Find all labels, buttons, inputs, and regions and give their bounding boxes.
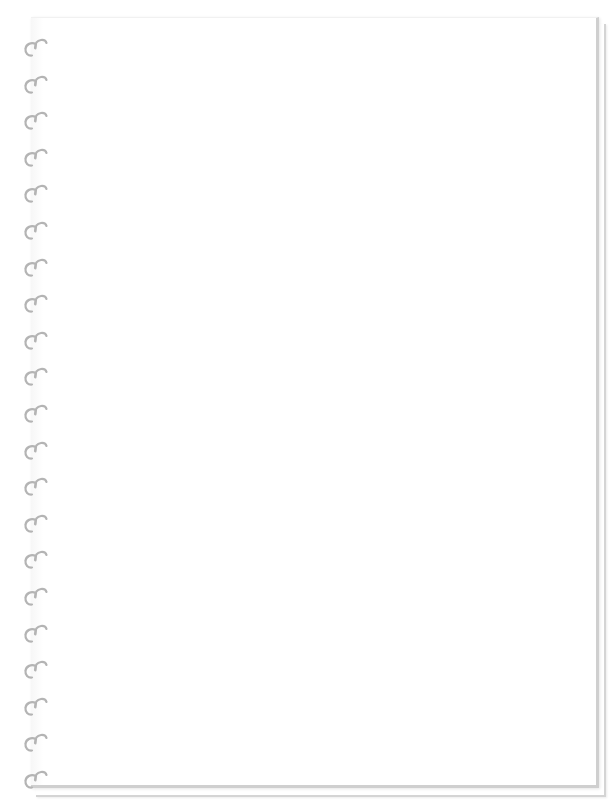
- spiral-ring-icon: [22, 585, 50, 609]
- spiral-ring-icon: [22, 402, 50, 426]
- spiral-ring-icon: [22, 109, 50, 133]
- spiral-ring-icon: [22, 73, 50, 97]
- spiral-ring-icon: [22, 256, 50, 280]
- spiral-ring-icon: [22, 36, 50, 60]
- spiral-ring-icon: [22, 219, 50, 243]
- notebook: [0, 0, 616, 804]
- spiral-ring-icon: [22, 182, 50, 206]
- spiral-ring-icon: [22, 475, 50, 499]
- spiral-ring-icon: [22, 292, 50, 316]
- spiral-ring-icon: [22, 512, 50, 536]
- spiral-ring-icon: [22, 768, 50, 792]
- spiral-ring-icon: [22, 439, 50, 463]
- notebook-page: [31, 17, 599, 788]
- spiral-ring-icon: [22, 695, 50, 719]
- spiral-ring-icon: [22, 622, 50, 646]
- spiral-ring-icon: [22, 329, 50, 353]
- spiral-ring-icon: [22, 146, 50, 170]
- spiral-binding: [0, 0, 60, 804]
- spiral-ring-icon: [22, 658, 50, 682]
- spiral-ring-icon: [22, 548, 50, 572]
- spiral-ring-icon: [22, 365, 50, 389]
- spiral-ring-icon: [22, 731, 50, 755]
